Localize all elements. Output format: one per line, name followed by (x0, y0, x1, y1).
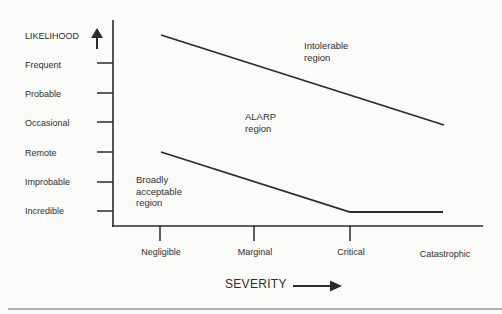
right-arrow-icon (293, 281, 342, 292)
y-level-frequent: Frequent (25, 60, 61, 71)
y-axis-ticks (97, 63, 113, 211)
region-broadly-acceptable-line3: region (136, 197, 182, 209)
x-level-critical: Critical (337, 247, 365, 258)
y-level-incredible: Incredible (25, 206, 64, 217)
x-axis-title: SEVERITY (225, 279, 287, 290)
region-alarp-label: ALARP region (245, 111, 276, 134)
y-level-remote: Remote (25, 148, 57, 159)
region-broadly-acceptable-line1: Broadly (136, 174, 182, 186)
x-level-catastrophic: Catastrophic (420, 249, 471, 260)
y-level-probable: Probable (25, 89, 61, 100)
x-axis-ticks (160, 226, 350, 241)
region-broadly-acceptable-label: Broadly acceptable region (136, 174, 182, 209)
region-alarp-line1: ALARP (245, 111, 276, 123)
region-intolerable-line2: region (304, 52, 348, 64)
y-level-improbable: Improbable (25, 177, 70, 188)
region-alarp-line2: region (245, 123, 276, 135)
up-arrow-icon (91, 28, 103, 49)
x-level-negligible: Negligible (141, 247, 181, 258)
y-axis-title: LIKELIHOOD (25, 31, 79, 42)
x-level-marginal: Marginal (238, 247, 273, 258)
region-intolerable-label: Intolerable region (304, 40, 348, 63)
region-intolerable-line1: Intolerable (304, 40, 348, 52)
region-broadly-acceptable-line2: acceptable (136, 186, 182, 198)
intolerable-alarp-boundary-line (161, 35, 444, 125)
alarp-acceptable-boundary-line (161, 152, 443, 212)
y-level-occasional: Occasional (25, 118, 70, 129)
diagram-graphics (0, 0, 502, 314)
